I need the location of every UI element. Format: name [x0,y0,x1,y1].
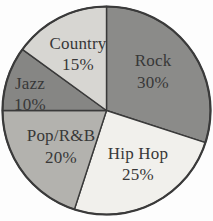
pie-chart: Rock30%Hip Hop25%Pop/R&B20%Jazz10%Countr… [0,0,213,221]
slice-value-hip-hop: 25% [122,165,154,184]
pie-chart-figure: Rock30%Hip Hop25%Pop/R&B20%Jazz10%Countr… [0,0,213,221]
slice-label-rock: Rock [135,51,172,70]
slice-label-country: Country [49,34,106,53]
slice-value-jazz: 10% [14,95,46,114]
slice-label-hip-hop: Hip Hop [108,144,168,163]
slice-value-pop-r-b: 20% [45,148,77,167]
slice-value-country: 15% [62,55,94,74]
slice-value-rock: 30% [137,73,169,92]
slice-label-pop-r-b: Pop/R&B [27,126,95,145]
slice-label-jazz: Jazz [15,74,45,93]
